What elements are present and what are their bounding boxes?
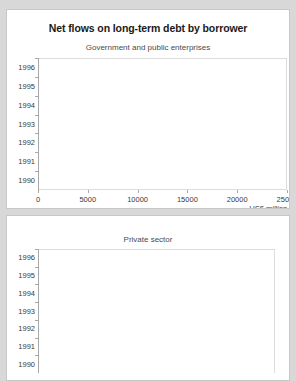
y-axis-tick xyxy=(35,58,38,59)
y-axis-tick xyxy=(35,249,38,250)
y-axis-label-1992: 1992 xyxy=(9,324,35,333)
bar-1994 xyxy=(39,101,209,110)
x-axis-tick xyxy=(88,190,89,193)
y-axis-tick xyxy=(35,267,38,268)
y-axis-label-1990: 1990 xyxy=(9,360,35,369)
chart-subtitle-private: Private sector xyxy=(7,235,289,244)
bar-1995 xyxy=(39,271,66,280)
chart-subtitle-government: Government and public enterprises xyxy=(7,43,289,52)
bar-1993 xyxy=(39,307,52,316)
bar-1991 xyxy=(39,342,41,351)
bar-1994 xyxy=(39,289,49,298)
plot-frame xyxy=(38,249,275,373)
x-axis-unit-label: US$ million xyxy=(249,204,287,209)
plot-area-private: 1990199119921993199419951996 xyxy=(38,249,275,373)
y-axis-label-1994: 1994 xyxy=(9,101,35,110)
y-axis-label-1995: 1995 xyxy=(9,82,35,91)
y-axis-label-1993: 1993 xyxy=(9,307,35,316)
y-axis-tick xyxy=(35,171,38,172)
y-axis-tick xyxy=(35,96,38,97)
x-axis-tick-label: 0 xyxy=(18,195,58,204)
x-axis-tick-label: 10000 xyxy=(118,195,158,204)
x-axis-tick-label: 20000 xyxy=(217,195,257,204)
y-axis-label-1991: 1991 xyxy=(9,342,35,351)
y-axis-label-1993: 1993 xyxy=(9,120,35,129)
y-axis-tick xyxy=(35,152,38,153)
chart-panel-private: Private sector 1990199119921993199419951… xyxy=(6,215,290,381)
y-axis-tick xyxy=(35,302,38,303)
x-axis-tick xyxy=(138,190,139,193)
y-axis-tick xyxy=(35,320,38,321)
y-axis-tick xyxy=(35,284,38,285)
x-axis-tick-label: 5000 xyxy=(68,195,108,204)
y-axis-label-1991: 1991 xyxy=(9,157,35,166)
x-axis-tick-label: 25000 xyxy=(267,195,290,204)
y-axis-tick xyxy=(35,133,38,134)
x-axis-tick xyxy=(287,190,288,193)
page-title: Net flows on long-term debt by borrower xyxy=(7,22,289,34)
y-axis-label-1994: 1994 xyxy=(9,289,35,298)
y-axis-label-1990: 1990 xyxy=(9,176,35,185)
bar-1992 xyxy=(39,138,252,147)
x-axis-tick xyxy=(237,190,238,193)
y-axis-tick xyxy=(35,355,38,356)
y-axis-tick xyxy=(35,115,38,116)
x-axis-tick xyxy=(38,190,39,193)
y-axis-label-1996: 1996 xyxy=(9,63,35,72)
bar-1996 xyxy=(39,63,162,72)
chart-panel-government: Net flows on long-term debt by borrower … xyxy=(6,9,290,209)
bar-1993 xyxy=(39,120,276,129)
y-axis-label-1996: 1996 xyxy=(9,253,35,262)
plot-area-government: 1990199119921993199419951996050001000015… xyxy=(38,58,287,190)
y-axis-tick xyxy=(35,77,38,78)
y-axis-tick xyxy=(35,338,38,339)
x-axis-tick-label: 15000 xyxy=(167,195,207,204)
bar-1991 xyxy=(39,157,196,166)
bar-1990 xyxy=(39,176,226,185)
bar-1992 xyxy=(39,324,45,333)
bar-1995 xyxy=(39,82,187,91)
y-axis-label-1995: 1995 xyxy=(9,271,35,280)
y-axis-label-1992: 1992 xyxy=(9,138,35,147)
x-axis-tick xyxy=(187,190,188,193)
bar-1996 xyxy=(39,253,90,262)
